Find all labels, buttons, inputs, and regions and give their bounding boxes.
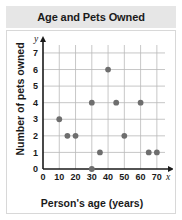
y-tick-label: 6 — [33, 65, 38, 75]
data-point — [65, 133, 71, 139]
axes-group — [40, 36, 173, 172]
x-tick-label: 60 — [136, 172, 146, 182]
x-axis-title: Person's age (years) — [7, 197, 177, 209]
data-point — [121, 133, 127, 139]
plot-area: 010203040506070 01234567 xy — [21, 35, 173, 193]
data-point — [146, 150, 152, 156]
plot-card: Number of pets owned Person's age (years… — [6, 30, 176, 214]
x-axis-variable-label: x — [165, 172, 171, 182]
page-title: Age and Pets Owned — [37, 11, 145, 23]
y-tick-label: 1 — [33, 148, 38, 158]
scatter-plot-figure: Age and Pets Owned Number of pets owned … — [0, 0, 182, 220]
y-tick-label: 4 — [33, 98, 38, 108]
y-axis-arrow — [40, 36, 46, 42]
data-point — [97, 150, 103, 156]
data-point — [56, 116, 62, 122]
x-tick-label: 20 — [71, 172, 81, 182]
x-tick-label: 10 — [54, 172, 64, 182]
data-point — [89, 100, 95, 106]
y-axis-variable-label: y — [33, 35, 39, 44]
data-point — [113, 100, 119, 106]
x-tick-label: 50 — [119, 172, 129, 182]
y-tick-label: 0 — [33, 164, 38, 174]
x-tick-label: 30 — [87, 172, 97, 182]
x-tick-labels-group: 010203040506070 — [40, 172, 161, 182]
x-tick-label: 70 — [152, 172, 162, 182]
data-point — [89, 166, 95, 172]
data-point — [138, 100, 144, 106]
y-tick-label: 2 — [33, 131, 38, 141]
y-tick-label: 7 — [33, 48, 38, 58]
y-tick-labels-group: 01234567 — [33, 48, 38, 174]
x-tick-label: 40 — [103, 172, 113, 182]
data-point — [154, 150, 160, 156]
y-tick-label: 5 — [33, 81, 38, 91]
chart-title-band: Age and Pets Owned — [6, 6, 176, 28]
axis-variable-labels-group: xy — [33, 35, 171, 182]
y-tick-label: 3 — [33, 114, 38, 124]
data-point — [105, 67, 111, 73]
x-tick-label: 0 — [40, 172, 45, 182]
data-point — [73, 133, 79, 139]
